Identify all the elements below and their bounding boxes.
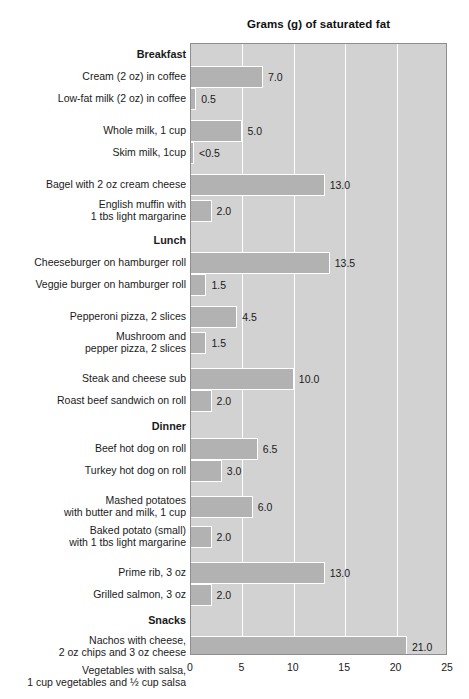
saturated-fat-bar-chart: Grams (g) of saturated fat BreakfastCrea… <box>0 0 469 699</box>
bar <box>190 526 212 548</box>
plot-area: 7.00.55.0<0.513.02.013.51.54.51.510.02.0… <box>190 43 447 655</box>
bar <box>190 584 212 606</box>
bar-value-label: 21.0 <box>412 642 432 653</box>
category-label-column: BreakfastCream (2 oz) in coffeeLow-fat m… <box>0 43 186 655</box>
bar <box>190 368 294 390</box>
x-tick-label-0: 0 <box>187 661 193 673</box>
bar <box>190 274 206 296</box>
category-label: English muffin with 1 tbs light margarin… <box>0 198 186 223</box>
bar <box>190 200 212 222</box>
bar-value-label: 3.0 <box>227 466 242 477</box>
category-label: Skim milk, 1cup <box>0 146 186 158</box>
x-tick-label-20: 20 <box>390 661 402 673</box>
bar <box>190 460 222 482</box>
bar-value-label: 5.0 <box>247 126 262 137</box>
bar <box>190 496 253 518</box>
section-header-snacks: Snacks <box>0 614 186 626</box>
category-label: Turkey hot dog on roll <box>0 464 186 476</box>
bar-value-label: 6.0 <box>258 502 273 513</box>
bar-value-label: 10.0 <box>299 374 319 385</box>
bar-value-label: 6.5 <box>263 444 278 455</box>
category-label: Cheeseburger on hamburger roll <box>0 256 186 268</box>
category-label: Prime rib, 3 oz <box>0 566 186 578</box>
section-header-dinner: Dinner <box>0 420 186 432</box>
bar-value-label: 2.0 <box>217 590 232 601</box>
bar <box>190 438 258 460</box>
category-label: Pepperoni pizza, 2 slices <box>0 310 186 322</box>
category-label: Roast beef sandwich on roll <box>0 394 186 406</box>
x-tick-label-5: 5 <box>238 661 244 673</box>
bar-value-label: 0.5 <box>201 94 216 105</box>
category-label: Baked potato (small) with 1 tbs light ma… <box>0 524 186 549</box>
bar-value-label: 13.0 <box>330 180 350 191</box>
bar <box>190 66 263 88</box>
gridline-15 <box>345 44 346 654</box>
x-tick-label-15: 15 <box>338 661 350 673</box>
bar-value-label: <0.5 <box>199 148 220 159</box>
bar <box>190 332 206 354</box>
bar-value-label: 1.5 <box>211 280 226 291</box>
x-tick-label-10: 10 <box>287 661 299 673</box>
chart-title: Grams (g) of saturated fat <box>190 18 447 30</box>
category-label: Veggie burger on hamburger roll <box>0 278 186 290</box>
bar <box>190 390 212 412</box>
category-label: Beef hot dog on roll <box>0 442 186 454</box>
category-label: Mushroom and pepper pizza, 2 slices <box>0 330 186 355</box>
section-header-breakfast: Breakfast <box>0 48 186 60</box>
bar <box>190 88 196 110</box>
category-label: Steak and cheese sub <box>0 372 186 384</box>
bar <box>190 306 237 328</box>
category-label: Vegetables with salsa, 1 cup vegetables … <box>0 664 186 689</box>
category-label: Bagel with 2 oz cream cheese <box>0 178 186 190</box>
category-label: Nachos with cheese, 2 oz chips and 3 oz … <box>0 634 186 659</box>
gridline-20 <box>397 44 398 654</box>
bar-value-label: 2.0 <box>217 532 232 543</box>
bar <box>190 120 242 142</box>
bar-value-label: 7.0 <box>268 72 283 83</box>
bar <box>190 142 194 164</box>
bar <box>190 562 325 584</box>
category-label: Grilled salmon, 3 oz <box>0 588 186 600</box>
bar-value-label: 13.0 <box>330 568 350 579</box>
category-label: Low-fat milk (2 oz) in coffee <box>0 92 186 104</box>
bar-value-label: 2.0 <box>217 396 232 407</box>
bar <box>190 174 325 196</box>
bar <box>190 636 407 655</box>
bar-value-label: 1.5 <box>211 338 226 349</box>
bar <box>190 252 330 274</box>
category-label: Mashed potatoes with butter and milk, 1 … <box>0 494 186 519</box>
section-header-lunch: Lunch <box>0 234 186 246</box>
category-label: Whole milk, 1 cup <box>0 124 186 136</box>
bar-value-label: 13.5 <box>335 258 355 269</box>
category-label: Cream (2 oz) in coffee <box>0 70 186 82</box>
bar-value-label: 2.0 <box>217 206 232 217</box>
bar-value-label: 4.5 <box>242 312 257 323</box>
x-axis: 0510152025 <box>190 655 447 679</box>
x-tick-label-25: 25 <box>441 661 453 673</box>
